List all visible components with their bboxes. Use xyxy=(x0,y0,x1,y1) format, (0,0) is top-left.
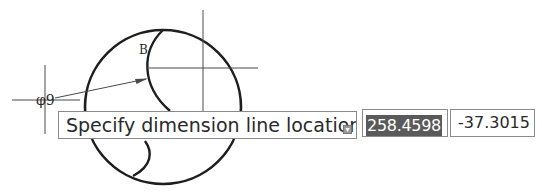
inner-arc-lower xyxy=(133,141,150,176)
inner-arc-upper xyxy=(147,30,170,111)
cad-drawing-canvas[interactable]: φ9 B xyxy=(0,0,542,194)
point-label-b: B xyxy=(139,43,148,57)
dimension-text: φ9 xyxy=(36,92,55,108)
x-coordinate-value: 258.4598 xyxy=(366,115,442,137)
outer-circle xyxy=(85,30,241,184)
dynamic-input-prompt: Specify dimension line location or ▾ xyxy=(58,111,357,139)
arrowhead-icon xyxy=(135,79,148,85)
down-arrow-icon[interactable]: ▾ xyxy=(343,125,352,134)
x-coordinate-input[interactable]: 258.4598 xyxy=(362,109,448,137)
y-coordinate-value: -37.3015 xyxy=(458,113,530,132)
dimension-leader-line xyxy=(55,79,146,98)
prompt-text: Specify dimension line location or xyxy=(66,114,357,136)
y-coordinate-input[interactable]: -37.3015 xyxy=(450,109,535,137)
